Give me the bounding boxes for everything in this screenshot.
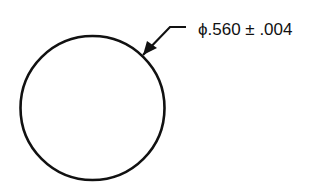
circle-feature [21, 36, 165, 180]
leader-line [143, 27, 186, 55]
engineering-drawing: ϕ.560 ± .004 [0, 0, 323, 182]
diameter-dimension-label: ϕ.560 ± .004 [198, 20, 292, 39]
